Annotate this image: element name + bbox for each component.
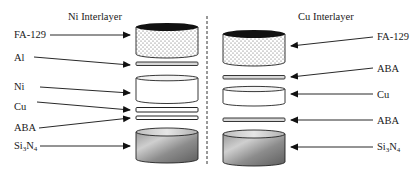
- left-fa129-cylinder: [136, 23, 198, 58]
- label-fa129-left: FA-129: [14, 29, 46, 41]
- left-panel-title: Ni Interlayer: [68, 11, 122, 23]
- label-cu-left: Cu: [14, 101, 26, 113]
- label-aba-left: ABA: [14, 122, 36, 134]
- label-si3n4-right: Si3N4: [377, 141, 400, 153]
- right-aba-disc-1: [223, 76, 285, 80]
- left-aba-disc: [136, 116, 198, 120]
- label-aba-right-2: ABA: [377, 115, 399, 127]
- arrow-aba-left: [39, 118, 130, 128]
- diagram-graphics: [0, 0, 418, 172]
- arrow-aba-right-1: [291, 68, 373, 77]
- right-aba-disc-2: [223, 118, 285, 122]
- left-si3n4-cylinder: [136, 128, 198, 163]
- arrow-fa129-right: [291, 37, 373, 46]
- label-fa129-right: FA-129: [377, 31, 409, 43]
- label-al: Al: [14, 52, 25, 64]
- left-al-disc: [136, 62, 198, 66]
- right-cu-cylinder: [223, 86, 285, 106]
- label-cu-right: Cu: [377, 89, 389, 101]
- label-si3n4-left: Si3N4: [14, 140, 37, 152]
- interlayer-diagram: Ni Interlayer Cu Interlayer FA-129 Al Ni…: [0, 0, 418, 172]
- arrow-ni: [40, 87, 130, 93]
- left-ni-cylinder: [136, 75, 198, 103]
- label-ni: Ni: [14, 81, 25, 93]
- right-si3n4-cylinder: [223, 130, 285, 166]
- left-cu-disc: [136, 108, 198, 113]
- label-aba-right-1: ABA: [377, 63, 399, 75]
- arrow-cu-left: [37, 102, 130, 110]
- right-fa129-cylinder: [223, 30, 285, 66]
- arrow-al: [34, 57, 130, 65]
- right-panel-title: Cu Interlayer: [298, 11, 354, 23]
